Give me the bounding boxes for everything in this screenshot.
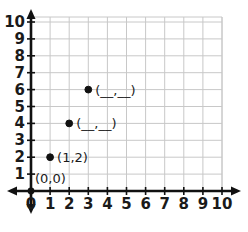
data-point-marker — [66, 120, 73, 127]
y-axis-tick-label: 10 — [4, 15, 25, 30]
axis-tick-marks — [27, 22, 222, 195]
y-axis-tick-label: 8 — [15, 48, 25, 63]
point-coordinate-label: (__,__) — [95, 83, 135, 96]
y-axis-tick-label: 3 — [15, 133, 25, 148]
x-axis-tick-label: 5 — [121, 197, 131, 212]
x-axis-tick-label: 1 — [45, 197, 55, 212]
coordinate-grid-worksheet: 012345678910 12345678910 (1,2)(__,__)(__… — [0, 0, 248, 232]
origin-label: (0,0) — [35, 172, 66, 185]
y-axis-tick-label: 4 — [15, 116, 25, 131]
y-axis-tick-label: 7 — [15, 65, 25, 80]
x-axis-tick-label: 3 — [83, 197, 93, 212]
data-point-marker — [85, 86, 92, 93]
x-axis-arrow-right-icon — [231, 187, 241, 196]
point-coordinate-label: (__,__) — [76, 117, 116, 130]
x-axis-tick-label: 10 — [212, 197, 233, 212]
y-axis-tick-label: 5 — [15, 99, 25, 114]
x-axis-tick-label: 9 — [198, 197, 208, 212]
y-axis-tick-label: 6 — [15, 82, 25, 97]
y-axis-tick-label: 9 — [15, 31, 25, 46]
x-axis-tick-label: 0 — [26, 197, 36, 212]
origin-point-marker — [28, 188, 35, 195]
y-axis-arrow-up-icon — [27, 9, 36, 19]
data-point-marker — [47, 154, 54, 161]
y-axis-tick-label: 1 — [15, 167, 25, 182]
point-coordinate-label: (1,2) — [57, 151, 88, 164]
y-axis-tick-label: 2 — [15, 150, 25, 165]
x-axis-tick-label: 7 — [159, 197, 169, 212]
x-axis-tick-label: 4 — [102, 197, 112, 212]
x-axis-tick-label: 6 — [140, 197, 150, 212]
x-axis-tick-label: 2 — [64, 197, 74, 212]
grid-lines — [31, 17, 222, 191]
x-axis-arrow-left-icon — [7, 187, 17, 196]
x-axis-tick-label: 8 — [179, 197, 189, 212]
